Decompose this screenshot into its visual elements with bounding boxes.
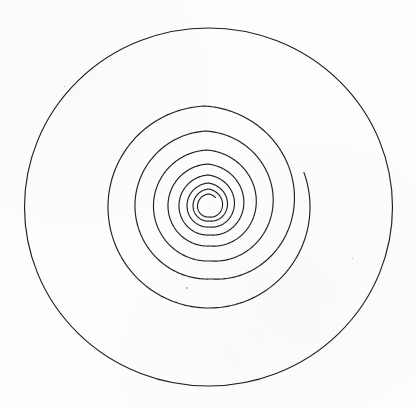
- figure-page: [0, 0, 417, 409]
- spiral-curve: [108, 106, 310, 308]
- speck-center-low: [186, 287, 188, 289]
- bounding-circle: [25, 28, 393, 386]
- spiral-figure: [0, 0, 417, 409]
